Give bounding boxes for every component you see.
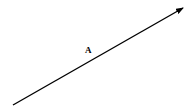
vector-label: A xyxy=(85,45,92,55)
vector-svg xyxy=(0,0,191,110)
vector-arrow xyxy=(13,8,183,105)
vector-diagram: A xyxy=(0,0,191,110)
